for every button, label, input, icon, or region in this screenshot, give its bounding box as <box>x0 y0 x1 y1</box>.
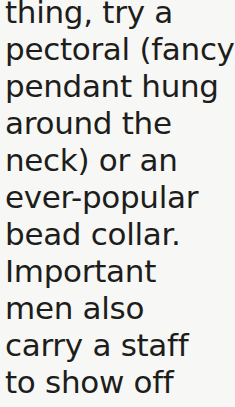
text-line: thing, try a <box>5 0 208 31</box>
text-line: bead collar. <box>5 216 208 253</box>
text-line: pectoral (fancy <box>5 31 208 68</box>
text-line: ever-popular <box>5 179 208 216</box>
text-line: to show off <box>5 364 208 401</box>
text-line: carry a staff <box>5 327 208 364</box>
text-line: men also <box>5 290 208 327</box>
text-line: their social <box>5 401 208 407</box>
text-line: neck) or an <box>5 142 208 179</box>
text-line: around the <box>5 105 208 142</box>
body-text-paragraph: thing, try a pectoral (fancy pendant hun… <box>5 0 208 407</box>
text-line: Important <box>5 253 208 290</box>
text-line: pendant hung <box>5 68 208 105</box>
